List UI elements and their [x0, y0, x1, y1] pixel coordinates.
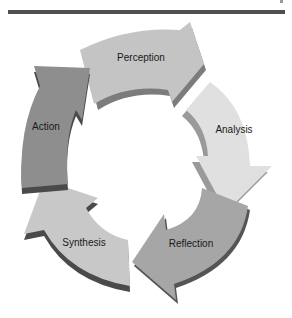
label-analysis: Analysis	[215, 124, 252, 135]
label-action: Action	[32, 121, 60, 132]
cycle-diagram	[0, 0, 292, 318]
arrow-analysis	[182, 82, 272, 218]
label-perception: Perception	[117, 52, 165, 63]
label-reflection: Reflection	[169, 238, 213, 249]
arrow-perception	[80, 22, 206, 110]
label-synthesis: Synthesis	[62, 237, 105, 248]
